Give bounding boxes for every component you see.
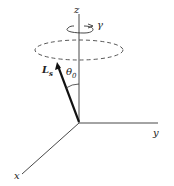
precession-diagram: z γ y x Ls θ0	[0, 0, 174, 186]
z-axis-label: z	[74, 5, 79, 15]
x-axis-label: x	[14, 171, 20, 181]
vector-label: Ls	[42, 65, 53, 77]
diagram-graphic	[0, 0, 174, 186]
x-axis	[22, 123, 79, 174]
angle-label: θ0	[66, 67, 77, 80]
y-axis-label: y	[153, 128, 159, 138]
rotation-gamma-label: γ	[97, 20, 103, 30]
rotation-arrow-icon	[67, 26, 93, 33]
angle-arc	[66, 84, 79, 88]
